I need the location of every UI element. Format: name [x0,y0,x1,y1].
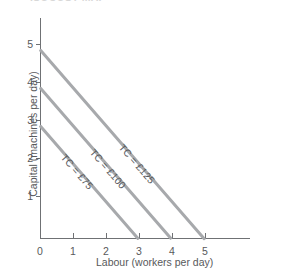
isocost-map-figure: ISOCOST MAP 5 4 3 2 1 0 1 2 3 4 5 [0,0,285,274]
x-tick-1 [73,233,74,238]
isocost-label-tc-75: TC = £75 [59,152,96,192]
cropped-caption-remnant: ISOCOST MAP [30,0,150,3]
x-tick-label-0-wrap: 0 [30,241,50,259]
y-axis-title: Capital (machines per day) [27,54,39,214]
y-tick-5 [36,44,41,45]
x-tick-label-1-wrap: 1 [63,241,83,259]
x-tick-2 [106,233,107,238]
x-tick-label-0: 0 [37,245,43,257]
x-axis-line [40,238,250,239]
y-tick-label-5: 5 [18,39,33,50]
x-tick-label-1: 1 [70,245,76,257]
x-axis-title: Labour (workers per day) [96,256,213,268]
